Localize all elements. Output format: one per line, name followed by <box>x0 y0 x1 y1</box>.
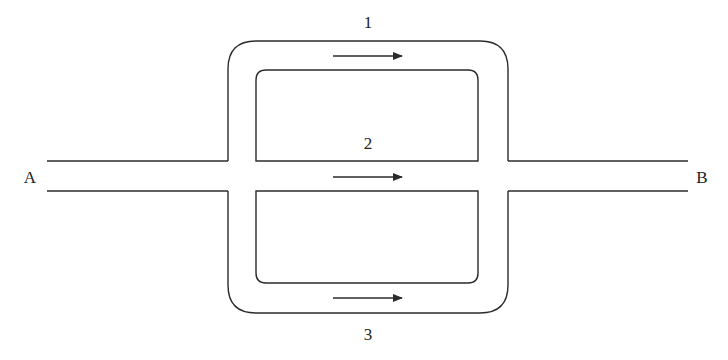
path-label-2: 2 <box>364 134 373 153</box>
outer-wall-bottom <box>228 191 508 313</box>
parallel-paths-diagram: 1 2 3 A B <box>0 0 728 360</box>
endpoint-label-b: B <box>696 168 707 187</box>
path-label-3: 3 <box>364 325 373 344</box>
inlet-channel-a <box>47 161 228 191</box>
outlet-channel-b <box>508 161 688 191</box>
inner-island-bottom <box>256 191 478 283</box>
path-label-1: 1 <box>364 13 373 32</box>
endpoint-label-a: A <box>24 168 37 187</box>
